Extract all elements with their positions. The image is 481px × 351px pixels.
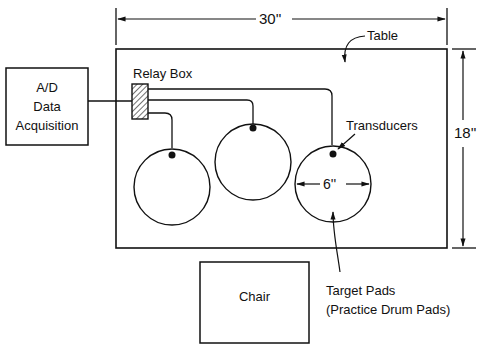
transducers-label: Transducers xyxy=(346,119,418,132)
acquisition-label-line1: A/D xyxy=(6,78,88,97)
target-pad-middle xyxy=(215,124,291,200)
width-dimension-label: 30'' xyxy=(259,11,281,26)
transducer-pointer-arrow xyxy=(338,134,355,149)
acquisition-label-line3: Acquisition xyxy=(6,116,88,135)
chair-label: Chair xyxy=(200,290,309,303)
target-pads-label-line1: Target Pads xyxy=(326,281,450,300)
acquisition-label-line2: Data xyxy=(6,97,88,116)
pad-diameter-label: 6'' xyxy=(323,177,336,191)
table-label: Table xyxy=(367,29,398,42)
target-pad-left xyxy=(134,149,210,225)
target-pads-label: Target Pads (Practice Drum Pads) xyxy=(326,281,450,319)
transducer-left xyxy=(169,152,176,159)
relay-box-label: Relay Box xyxy=(133,67,192,80)
transducer-right xyxy=(330,151,337,158)
relay-cables xyxy=(148,89,332,148)
height-dimension-label: 18'' xyxy=(454,125,476,140)
acquisition-label: A/D Data Acquisition xyxy=(6,78,88,135)
height-dimension-line xyxy=(452,49,476,248)
transducer-middle xyxy=(250,125,257,132)
relay-box xyxy=(132,84,148,119)
target-pads-label-line2: (Practice Drum Pads) xyxy=(326,300,450,319)
target-pads xyxy=(134,124,371,225)
